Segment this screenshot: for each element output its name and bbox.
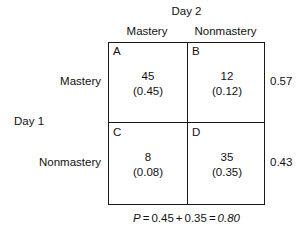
cell-values-a: 45 (0.45) [109, 69, 187, 99]
cell-values-d: 35 (0.35) [188, 150, 266, 180]
row-axis-title: Day 1 [14, 116, 44, 128]
cell-count-a: 45 [109, 69, 187, 84]
formula-plus: + [174, 212, 185, 224]
table-cell-a: A 45 (0.45) [109, 43, 187, 122]
cell-letter-c: C [113, 127, 121, 139]
row-margin-nonmastery: 0.43 [270, 157, 292, 169]
row-header-nonmastery: Nonmastery [0, 157, 101, 169]
cell-letter-b: B [192, 46, 200, 58]
cell-proportion-c: (0.08) [109, 165, 187, 180]
cell-count-b: 12 [188, 69, 266, 84]
formula-symbol: P [133, 212, 141, 224]
cell-proportion-d: (0.35) [188, 165, 266, 180]
cell-proportion-b: (0.12) [188, 84, 266, 99]
cell-letter-d: D [192, 127, 200, 139]
table-cell-b: B 12 (0.12) [188, 43, 266, 122]
formula-equals-second: = [207, 212, 218, 224]
formula-result: 0.80 [218, 212, 240, 224]
cell-letter-a: A [113, 46, 121, 58]
cell-count-d: 35 [188, 150, 266, 165]
column-axis-title: Day 2 [108, 6, 265, 18]
cell-count-c: 8 [109, 150, 187, 165]
cell-values-c: 8 (0.08) [109, 150, 187, 180]
column-header-mastery: Mastery [108, 26, 186, 38]
contingency-table-figure: Day 2 Mastery Nonmastery Day 1 Mastery N… [0, 0, 307, 234]
matrix-grid: A 45 (0.45) B 12 (0.12) C 8 (0.08) D 35 [108, 42, 265, 205]
formula-term-one: 0.45 [151, 212, 173, 224]
formula-equals-first: = [141, 212, 152, 224]
formula-term-two: 0.35 [185, 212, 207, 224]
cell-values-b: 12 (0.12) [188, 69, 266, 99]
table-cell-c: C 8 (0.08) [109, 124, 187, 204]
cell-proportion-a: (0.45) [109, 84, 187, 99]
column-header-nonmastery: Nonmastery [186, 26, 265, 38]
table-cell-d: D 35 (0.35) [188, 124, 266, 204]
row-header-mastery: Mastery [0, 76, 101, 88]
row-margin-mastery: 0.57 [270, 76, 292, 88]
agreement-formula: P=0.45+0.35=0.80 [108, 212, 265, 224]
